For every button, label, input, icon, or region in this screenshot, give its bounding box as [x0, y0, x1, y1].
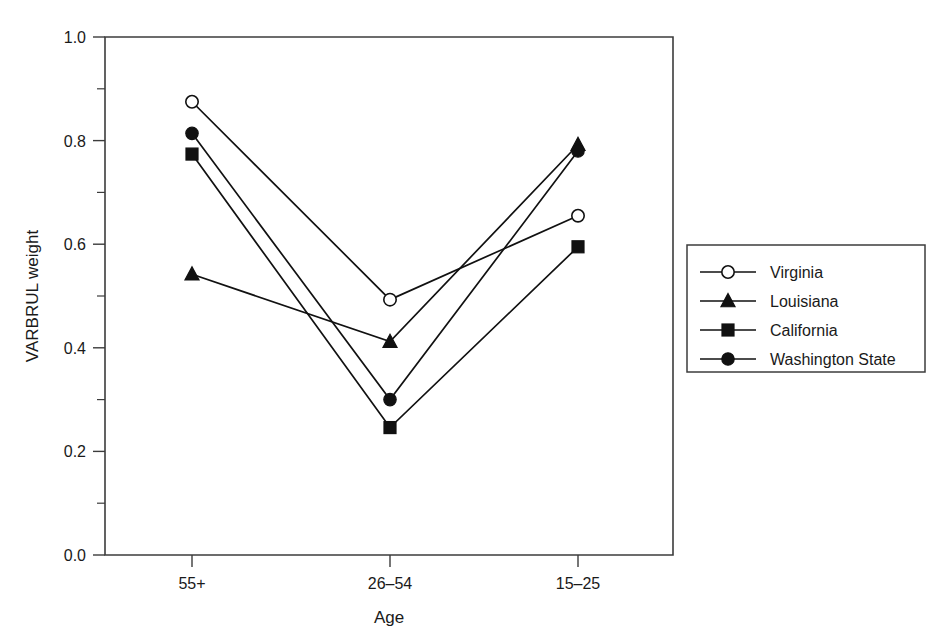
- y-tick-label: 0.0: [64, 547, 86, 564]
- legend-label: Washington State: [770, 351, 896, 368]
- y-tick-label: 0.4: [64, 340, 86, 357]
- legend-marker-filled-circle: [722, 353, 734, 365]
- x-tick-label: 15–25: [556, 575, 601, 592]
- y-tick-label: 1.0: [64, 29, 86, 46]
- y-tick-label: 0.6: [64, 236, 86, 253]
- data-point-marker: [384, 393, 396, 405]
- y-tick-label: 0.8: [64, 133, 86, 150]
- x-axis-title-text: Age: [374, 608, 404, 627]
- legend-label: Louisiana: [770, 293, 839, 310]
- x-axis-title: Age: [374, 608, 404, 627]
- data-point-marker: [186, 96, 198, 108]
- varbrul-weight-line-chart: 1.0 0.8 0.6 0.4 0.2 0.0 VARBRUL weight 5…: [0, 0, 942, 643]
- legend-marker-open-circle: [722, 266, 734, 278]
- legend: VirginiaLouisianaCaliforniaWashington St…: [687, 245, 925, 372]
- data-point-marker: [384, 422, 396, 434]
- data-point-marker: [572, 145, 584, 157]
- data-point-marker: [572, 241, 584, 253]
- y-axis-title-text: VARBRUL weight: [23, 230, 42, 363]
- x-tick-label: 55+: [178, 575, 205, 592]
- data-point-marker: [186, 148, 198, 160]
- legend-item-washington-state[interactable]: Washington State: [700, 351, 896, 368]
- x-tick-label: 26–54: [368, 575, 413, 592]
- y-axis-title: VARBRUL weight: [23, 230, 42, 363]
- data-point-marker: [572, 210, 584, 222]
- legend-label: California: [770, 322, 838, 339]
- legend-marker-filled-square: [722, 324, 734, 336]
- data-point-marker: [186, 127, 198, 139]
- y-tick-label: 0.2: [64, 443, 86, 460]
- data-point-marker: [384, 293, 396, 305]
- legend-label: Virginia: [770, 264, 823, 281]
